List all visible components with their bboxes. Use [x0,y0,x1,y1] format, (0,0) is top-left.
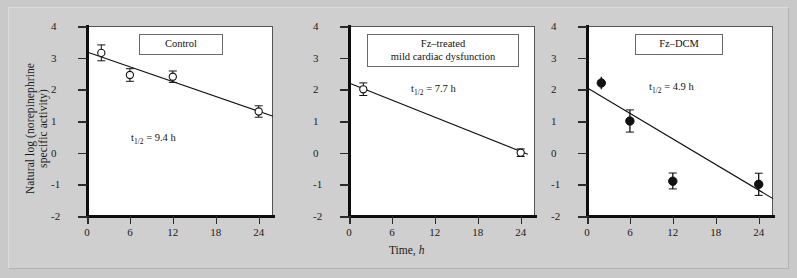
x-tick-label-6: 6 [627,226,633,238]
fit-line-control [87,52,273,116]
data-point-fz-treated-1 [517,149,525,157]
x-tick-label-24: 24 [253,226,264,238]
y-tick-label-3: 3 [51,52,78,64]
y-tick-label-1: 1 [313,115,340,127]
x-tick-label-12: 12 [167,226,178,238]
data-point-control-3 [255,106,263,117]
x-axis-label: Time, h [389,244,424,256]
y-axis-label: Natural log (norepinephrine specific act… [24,34,49,224]
panel-fz-treated: 4 3 2 1 0 -1 -2 0 6 12 18 24 Fz–treated … [349,26,535,216]
x-tick-label-0: 0 [584,226,590,238]
data-overlay-control [87,26,277,221]
y-tick-1 [78,121,87,123]
y-tick-neg2 [578,216,587,218]
y-tick-label-0: 0 [551,147,578,159]
x-tick-label-0: 0 [346,226,352,238]
y-tick-neg1 [340,184,349,186]
x-tick-label-6: 6 [389,226,395,238]
y-tick-neg2 [340,216,349,218]
y-tick-3 [578,58,587,60]
y-tick-label-4: 4 [51,20,78,32]
x-axis-label-text: Time, h [389,244,424,256]
y-tick-neg1 [578,184,587,186]
y-tick-label-0: 0 [51,147,78,159]
y-tick-4 [340,26,349,28]
y-tick-label-4: 4 [551,20,578,32]
x-tick-label-18: 18 [472,226,483,238]
y-tick-label-3: 3 [313,52,340,64]
y-tick-3 [340,58,349,60]
x-tick-label-12: 12 [429,226,440,238]
y-tick-2 [340,89,349,91]
y-tick-3 [78,58,87,60]
y-tick-neg2 [78,216,87,218]
figure-frame: Natural log (norepinephrine specific act… [8,7,789,269]
y-tick-label-2: 2 [551,83,578,95]
y-tick-label-2: 2 [313,83,340,95]
data-point-control-1 [126,69,134,82]
y-tick-label-neg1: -1 [313,178,340,190]
y-tick-2 [578,89,587,91]
y-tick-label-neg2: -2 [551,210,578,222]
y-axis-label-line2: specific activity) [36,34,49,224]
y-tick-2 [78,89,87,91]
x-tick-label-24: 24 [753,226,764,238]
panel-control: 4 3 2 1 0 -1 -2 0 6 12 18 24 Control t1/… [87,26,273,216]
y-tick-label-4: 4 [313,20,340,32]
data-overlay-fz-dcm [587,26,777,221]
x-tick-label-18: 18 [210,226,221,238]
x-tick-label-18: 18 [710,226,721,238]
data-point-fz-dcm-1 [626,110,634,132]
data-overlay-fz-treated [349,26,539,221]
x-tick-label-6: 6 [127,226,133,238]
x-tick-label-0: 0 [84,226,90,238]
panel-fz-dcm: 4 3 2 1 0 -1 -2 0 6 12 18 24 Fz–DCM t1/2… [587,26,773,216]
y-tick-label-3: 3 [551,52,578,64]
y-tick-label-1: 1 [551,115,578,127]
y-tick-label-neg1: -1 [551,178,578,190]
y-tick-1 [578,121,587,123]
y-axis-label-line1: Natural log (norepinephrine [24,34,37,224]
fit-line-fz-treated [349,83,528,154]
y-tick-0 [578,153,587,155]
fit-line-fz-dcm [587,88,773,199]
y-tick-label-2: 2 [51,83,78,95]
y-tick-0 [78,153,87,155]
y-tick-4 [78,26,87,28]
y-tick-4 [578,26,587,28]
y-tick-label-0: 0 [313,147,340,159]
data-point-control-0 [97,45,105,61]
x-tick-label-12: 12 [667,226,678,238]
figure-root: Natural log (norepinephrine specific act… [0,0,797,278]
y-tick-label-neg2: -2 [313,210,340,222]
data-point-fz-dcm-0 [597,77,605,90]
y-tick-label-1: 1 [51,115,78,127]
data-point-fz-treated-0 [359,83,367,96]
data-point-fz-dcm-2 [669,173,677,189]
y-tick-label-neg2: -2 [51,210,78,222]
x-tick-label-24: 24 [515,226,526,238]
y-tick-0 [340,153,349,155]
y-tick-1 [340,121,349,123]
y-tick-neg1 [78,184,87,186]
y-tick-label-neg1: -1 [51,178,78,190]
